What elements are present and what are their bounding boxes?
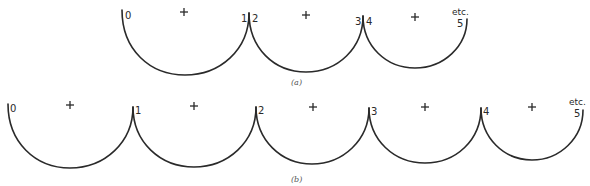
- point-label-a-5: 5: [457, 19, 463, 29]
- point-label-b-3: 3: [371, 107, 377, 117]
- point-label-b-2: 2: [258, 106, 264, 116]
- plus-icon: [180, 8, 188, 16]
- etc-label-a: etc.: [452, 8, 469, 17]
- point-label-a-4: 4: [366, 17, 372, 27]
- plus-icon: [528, 103, 536, 111]
- caption-a: (a): [291, 79, 302, 87]
- point-label-a-0: 0: [125, 11, 131, 21]
- arc-a-2-3: [249, 13, 363, 72]
- point-label-a-3: 3: [355, 17, 361, 27]
- plus-icon: [309, 103, 317, 111]
- arc-b-4-5: [481, 108, 583, 160]
- arc-a-0-1: [122, 10, 249, 75]
- arc-b-3-4: [369, 108, 481, 163]
- arc-diagram: [0, 0, 590, 186]
- plus-icon: [411, 13, 419, 21]
- arc-b-2-3: [256, 107, 369, 164]
- plus-icon: [190, 102, 198, 110]
- point-label-b-4: 4: [483, 107, 489, 117]
- point-label-a-1: 1: [241, 14, 247, 24]
- plus-icon: [66, 101, 74, 109]
- point-label-a-2: 2: [252, 14, 258, 24]
- point-label-b-1: 1: [135, 106, 141, 116]
- plus-icon: [421, 103, 429, 111]
- plus-icon: [302, 11, 310, 19]
- point-label-b-0: 0: [10, 104, 16, 114]
- arc-a-4-5: [363, 16, 467, 68]
- etc-label-b: etc.: [569, 98, 586, 107]
- cycloid-figure: 0 1 2 3 4 etc. 5 (a) 0 1 2 3 4 etc. 5 (b…: [0, 0, 590, 186]
- arc-b-1-2: [133, 107, 256, 167]
- point-label-b-5: 5: [574, 109, 580, 119]
- caption-b: (b): [291, 176, 302, 184]
- arc-b-0-1: [8, 104, 133, 168]
